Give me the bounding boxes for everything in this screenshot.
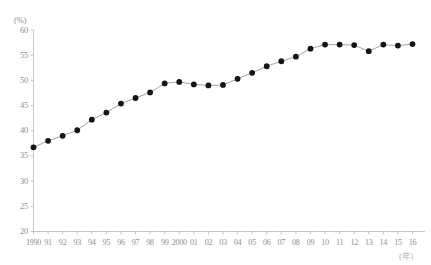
data-point	[264, 63, 270, 69]
data-point	[74, 127, 80, 133]
data-point	[60, 133, 66, 139]
data-point	[366, 48, 372, 54]
plot-area	[0, 0, 431, 265]
data-point	[118, 101, 124, 107]
data-point	[249, 70, 255, 76]
data-point	[220, 82, 226, 88]
data-point	[133, 95, 139, 101]
data-point	[147, 90, 153, 96]
data-point	[278, 58, 284, 64]
series-line	[34, 44, 413, 147]
data-point	[337, 42, 343, 48]
x-axis-ticks	[34, 232, 413, 235]
data-point	[235, 76, 241, 82]
data-point	[293, 54, 299, 60]
data-point	[410, 41, 416, 47]
line-chart: (%) (年) 605550454035302520 1990919293949…	[0, 0, 431, 265]
data-point	[45, 138, 51, 144]
data-point	[103, 110, 109, 116]
series-markers	[31, 41, 416, 150]
data-point	[31, 144, 37, 150]
data-point	[206, 83, 212, 89]
data-point	[351, 42, 357, 48]
data-point	[308, 46, 314, 52]
data-point	[380, 42, 386, 48]
data-point	[176, 79, 182, 85]
data-point	[162, 81, 168, 87]
data-point	[191, 82, 197, 88]
y-axis-ticks	[31, 30, 34, 232]
data-point	[395, 43, 401, 49]
data-point	[89, 117, 95, 123]
axis-lines	[34, 30, 426, 232]
data-point	[322, 42, 328, 48]
